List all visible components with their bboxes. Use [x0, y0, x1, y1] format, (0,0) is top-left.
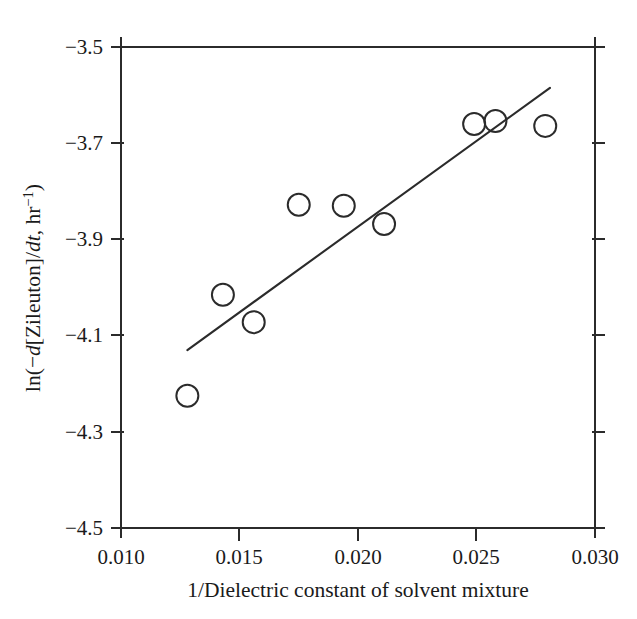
x-tick-label-4: 0.030 — [571, 545, 618, 569]
y-axis-title-mid: [Zileuton]/ — [21, 252, 45, 345]
x-tick-label-0: 0.010 — [97, 545, 144, 569]
y-tick-label-4: −4.3 — [65, 420, 103, 444]
y-axis-title-italic-dt: dt — [21, 234, 45, 252]
y-axis-title-italic-d: d — [21, 345, 45, 356]
figure-container: −3.5 −3.7 −3.9 −4.1 −4.3 −4.5 0.010 0.01… — [0, 0, 637, 619]
y-axis-title-pre: ln(− — [21, 356, 45, 392]
x-tick-label-3: 0.025 — [452, 545, 499, 569]
y-axis-title-post: , hr — [21, 207, 45, 236]
x-tick-label-1: 0.015 — [215, 545, 262, 569]
y-tick-label-0: −3.5 — [65, 35, 103, 59]
y-axis-title-superscript: −1 — [20, 191, 36, 206]
y-tick-label-5: −4.5 — [65, 516, 103, 540]
y-axis-title-tail: ) — [21, 184, 45, 191]
scatter-plot: −3.5 −3.7 −3.9 −4.1 −4.3 −4.5 0.010 0.01… — [0, 0, 637, 619]
y-tick-label-2: −3.9 — [65, 227, 103, 251]
x-axis-title: 1/Dielectric constant of solvent mixture — [187, 578, 529, 602]
x-tick-label-2: 0.020 — [334, 545, 381, 569]
y-tick-label-1: −3.7 — [65, 131, 103, 155]
y-axis-title: ln(−d[Zileuton]/dt, hr−1) — [20, 184, 45, 392]
y-tick-label-3: −4.1 — [65, 323, 103, 347]
